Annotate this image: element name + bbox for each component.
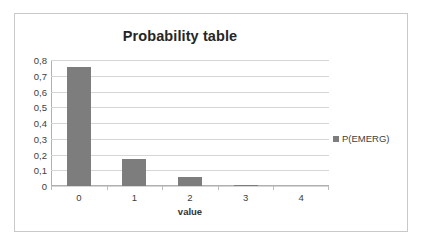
x-tick-label: 0 <box>51 192 107 203</box>
y-tick-label: 0,4 <box>17 118 47 129</box>
y-tick-label: 0 <box>17 181 47 192</box>
x-tick <box>273 186 274 190</box>
bar[interactable] <box>67 67 91 186</box>
bar-slot <box>218 60 274 186</box>
y-tick-label: 0,3 <box>17 133 47 144</box>
legend: P(EMERG) <box>333 133 390 144</box>
x-axis-ticks <box>51 186 329 191</box>
plot-area <box>51 60 329 186</box>
bar-slot <box>107 60 163 186</box>
x-tick <box>51 186 52 190</box>
x-axis-title: value <box>51 206 329 217</box>
x-tick-label: 2 <box>162 192 218 203</box>
y-tick-label: 0,1 <box>17 165 47 176</box>
legend-swatch-icon <box>333 136 339 142</box>
y-tick-label: 0,7 <box>17 70 47 81</box>
y-tick-label: 0,8 <box>17 55 47 66</box>
chart-frame: Probability table 0,80,70,60,50,40,30,20… <box>14 13 408 232</box>
x-tick-label: 4 <box>273 192 329 203</box>
y-axis: 0,80,70,60,50,40,30,20,10 <box>15 60 47 186</box>
x-axis-labels: 01234 <box>51 192 329 206</box>
bar[interactable] <box>178 177 202 186</box>
x-tick <box>218 186 219 190</box>
x-tick <box>328 186 329 190</box>
bar[interactable] <box>122 159 146 186</box>
bar-slot <box>51 60 107 186</box>
bar-slot <box>162 60 218 186</box>
x-tick-label: 3 <box>218 192 274 203</box>
chart-title: Probability table <box>15 28 345 44</box>
y-tick-label: 0,5 <box>17 102 47 113</box>
y-tick-label: 0,2 <box>17 149 47 160</box>
x-tick <box>162 186 163 190</box>
legend-item-label: P(EMERG) <box>342 133 390 144</box>
bar-slot <box>273 60 329 186</box>
x-tick <box>107 186 108 190</box>
x-tick-label: 1 <box>107 192 163 203</box>
y-tick-label: 0,6 <box>17 86 47 97</box>
